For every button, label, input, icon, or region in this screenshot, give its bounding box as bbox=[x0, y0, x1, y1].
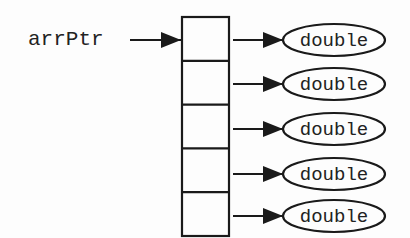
array-cell-0 bbox=[182, 17, 229, 61]
array-elements: doubledoubledoubledoubledouble bbox=[233, 24, 385, 232]
pointer-array-diagram: arrPtr doubledoubledoubledoubledouble bbox=[0, 0, 410, 238]
element-type-label-2: double bbox=[300, 119, 368, 141]
element-type-label-3: double bbox=[300, 164, 368, 186]
array-box bbox=[182, 17, 229, 236]
pointer-label: arrPtr bbox=[28, 28, 104, 51]
element-type-label-4: double bbox=[300, 206, 368, 228]
array-cell-3 bbox=[182, 148, 229, 192]
element-type-label-0: double bbox=[300, 30, 368, 52]
element-type-label-1: double bbox=[300, 74, 368, 96]
array-cell-4 bbox=[182, 192, 229, 236]
array-cell-2 bbox=[182, 105, 229, 149]
array-cell-1 bbox=[182, 61, 229, 105]
